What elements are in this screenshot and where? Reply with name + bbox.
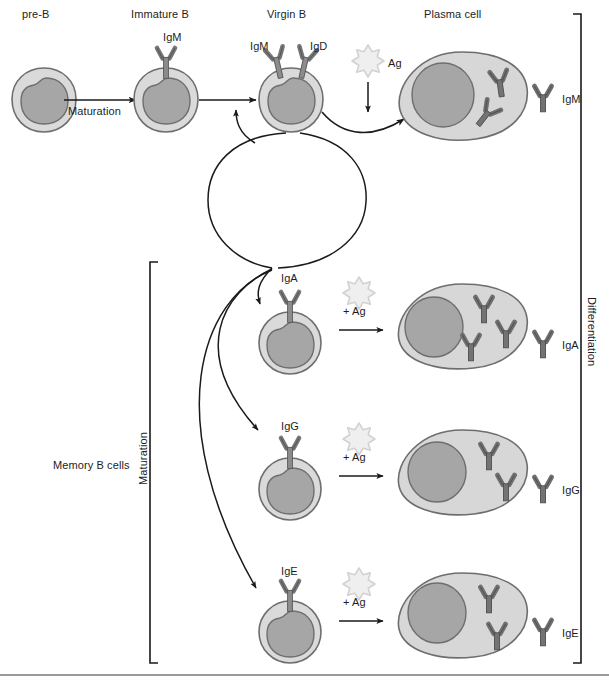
antigen-icon-top	[352, 45, 384, 77]
recirculation-loop	[208, 110, 366, 268]
differentiation-bracket-label: Differentiation	[586, 297, 598, 366]
antigen-label-ige: + Ag	[343, 596, 366, 608]
receptor-label-igg-memory: IgG	[281, 420, 299, 432]
secreted-antibody-iga	[534, 332, 551, 358]
memory-b-cells-label: Memory B cells	[53, 459, 130, 471]
cell-memory-igg	[259, 438, 321, 520]
arrows-to-memory-cells	[199, 268, 272, 588]
cell-plasma-ige	[398, 573, 527, 658]
stage-label-pre-b: pre-B	[22, 8, 49, 20]
maturation-arrow-label: Maturation	[68, 105, 121, 117]
cell-memory-iga	[259, 292, 321, 374]
cell-plasma-iga	[398, 284, 527, 369]
stage-label-plasma-cell: Plasma cell	[424, 8, 481, 20]
antigen-label-igg: + Ag	[343, 451, 366, 463]
antigen-label-iga: + Ag	[343, 305, 366, 317]
stage-label-immature-b: Immature B	[131, 8, 189, 20]
secreted-label-igg: IgG	[562, 484, 580, 496]
receptor-label-igd-virgin: IgD	[310, 40, 327, 52]
receptor-label-igm-virgin: IgM	[250, 40, 269, 52]
secreted-antibody-igm	[534, 86, 551, 112]
secreted-label-igm: IgM	[562, 93, 581, 105]
cell-memory-ige	[259, 581, 321, 663]
secreted-antibody-ige	[534, 620, 551, 646]
cell-virgin-b	[259, 46, 323, 132]
antigen-label-top: Ag	[388, 57, 402, 69]
maturation-bracket	[150, 262, 158, 663]
maturation-bracket-label: Maturation	[137, 432, 149, 485]
bottom-divider	[0, 674, 609, 676]
stage-label-virgin-b: Virgin B	[267, 8, 306, 20]
cell-plasma-igg	[398, 430, 527, 515]
cell-plasma-igm	[399, 52, 527, 140]
cell-immature-b	[134, 48, 198, 132]
receptor-label-iga-memory: IgA	[281, 272, 298, 284]
diagram-canvas: pre-B Immature B Virgin B Plasma cell Ma…	[0, 0, 609, 688]
receptor-label-igm-immature: IgM	[163, 31, 182, 43]
diagram-graphics	[0, 0, 609, 688]
receptor-label-ige-memory: IgE	[281, 565, 298, 577]
secreted-antibody-igg	[534, 477, 551, 503]
secreted-label-iga: IgA	[562, 339, 579, 351]
secreted-label-ige: IgE	[562, 627, 579, 639]
